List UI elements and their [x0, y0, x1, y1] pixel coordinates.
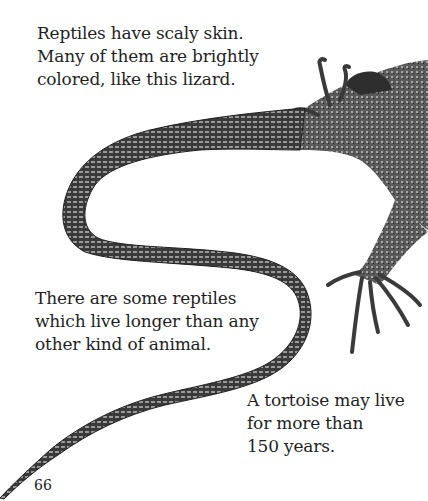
text-line: 150 years.: [247, 435, 405, 458]
lizard-body: [300, 60, 428, 230]
text-line: for more than: [247, 412, 405, 435]
book-page: Reptiles have scaly skin. Many of them a…: [0, 0, 428, 501]
longevity-paragraph: There are some reptiles which live longe…: [35, 287, 259, 356]
page-number: 66: [34, 477, 52, 493]
text-line: other kind of animal.: [35, 333, 259, 356]
text-line: Reptiles have scaly skin.: [37, 22, 259, 45]
lizard-front-leg: [328, 200, 428, 352]
text-line: Many of them are brightly: [37, 45, 259, 68]
text-line: There are some reptiles: [35, 287, 259, 310]
text-line: colored, like this lizard.: [37, 68, 259, 91]
text-line: which live longer than any: [35, 310, 259, 333]
tortoise-paragraph: A tortoise may live for more than 150 ye…: [247, 389, 405, 458]
text-line: A tortoise may live: [247, 389, 405, 412]
intro-paragraph: Reptiles have scaly skin. Many of them a…: [37, 22, 259, 91]
